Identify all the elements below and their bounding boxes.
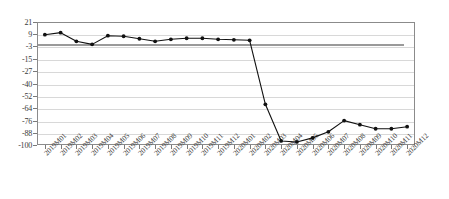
y-tick-mark — [33, 46, 37, 47]
y-gridline — [38, 47, 414, 48]
y-tick-mark — [33, 71, 37, 72]
y-tick-label: -88 — [22, 128, 32, 137]
y-gridline — [38, 60, 414, 61]
y-tick-mark — [33, 84, 37, 85]
plot-area — [37, 22, 415, 145]
y-tick-mark — [33, 34, 37, 35]
y-tick-mark — [33, 133, 37, 134]
y-tick-mark — [33, 145, 37, 146]
y-tick-label: -52 — [22, 92, 32, 101]
y-tick-label: -27 — [22, 66, 32, 75]
y-gridline — [38, 122, 414, 123]
y-tick-mark — [33, 121, 37, 122]
y-tick-label: 9 — [28, 30, 32, 39]
y-tick-mark — [33, 96, 37, 97]
y-gridline — [38, 109, 414, 110]
y-tick-label: 21 — [24, 18, 32, 27]
line-chart: 219-3-15-27-40-52-64-76-88-100 2019M0120… — [0, 0, 449, 199]
y-axis: 219-3-15-27-40-52-64-76-88-100 — [0, 0, 37, 199]
y-tick-label: -15 — [22, 54, 32, 63]
y-tick-mark — [33, 59, 37, 60]
y-tick-label: -76 — [22, 116, 32, 125]
y-tick-mark — [33, 108, 37, 109]
y-gridline — [38, 72, 414, 73]
y-tick-label: -100 — [18, 141, 32, 150]
y-gridline — [38, 97, 414, 98]
zero-reference-line — [38, 44, 404, 46]
y-tick-mark — [33, 22, 37, 23]
y-gridline — [38, 35, 414, 36]
y-tick-label: -40 — [22, 80, 32, 89]
y-tick-label: -3 — [26, 42, 32, 51]
y-tick-label: -64 — [22, 104, 32, 113]
y-gridline — [38, 85, 414, 86]
